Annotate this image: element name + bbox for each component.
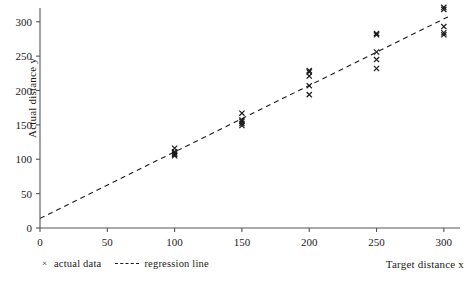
data-point-marker — [441, 24, 446, 29]
data-point-marker — [307, 92, 312, 97]
x-tick-label: 200 — [301, 236, 318, 248]
data-point-marker — [374, 57, 379, 62]
data-point-marker — [307, 73, 312, 78]
x-tick-label: 250 — [368, 236, 385, 248]
y-tick-label: 0 — [27, 222, 33, 234]
y-tick-label: 300 — [16, 16, 33, 28]
legend-entry-actual-data: × actual data — [40, 258, 101, 269]
legend-label-actual-data: actual data — [54, 258, 101, 269]
data-point-marker — [374, 66, 379, 71]
x-tick-label: 0 — [37, 236, 43, 248]
y-tick-label: 100 — [16, 153, 33, 165]
data-points — [172, 5, 446, 159]
data-point-marker — [239, 111, 244, 116]
x-tick-label: 100 — [166, 236, 183, 248]
x-tick-label: 300 — [436, 236, 453, 248]
x-tick-label: 50 — [102, 236, 114, 248]
x-axis-title: Target distance x — [386, 258, 464, 270]
data-point-marker — [374, 49, 379, 54]
y-axis-ticks: 050100150200250300 — [16, 16, 41, 234]
data-point-marker — [307, 83, 312, 88]
x-axis-ticks: 050100150200250300 — [37, 228, 452, 248]
x-tick-label: 150 — [234, 236, 251, 248]
y-tick-label: 50 — [21, 188, 33, 200]
y-tick-label: 150 — [16, 119, 33, 131]
scatter-plot-figure: Actual distance y Target distance x 0501… — [0, 0, 468, 282]
y-tick-label: 250 — [16, 50, 33, 62]
legend-entry-regression-line: regression line — [115, 258, 209, 269]
chart-legend: × actual data regression line — [40, 258, 209, 269]
plot-area: 050100150200250300 050100150200250300 — [0, 0, 468, 255]
axis-lines — [40, 8, 460, 228]
cross-marker-icon: × — [40, 259, 49, 268]
y-tick-label: 200 — [16, 85, 33, 97]
dashed-line-icon — [115, 263, 139, 265]
legend-label-regression-line: regression line — [144, 258, 209, 269]
